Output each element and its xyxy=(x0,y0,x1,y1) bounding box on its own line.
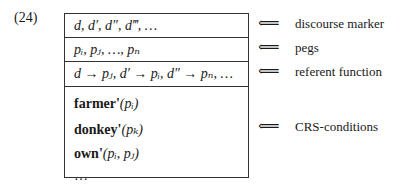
left-double-arrow-icon: ⟸ xyxy=(258,38,280,56)
label-discourse-marker: discourse marker xyxy=(295,16,384,32)
left-double-arrow-icon: ⟸ xyxy=(258,117,280,135)
referent-function-row: d → pⱼ, d′ → pᵢ, d″ → pₙ, … xyxy=(65,62,248,87)
condition-own: own'(pᵢ, pⱼ) xyxy=(74,145,139,162)
label-pegs: pegs xyxy=(295,40,319,56)
discourse-markers-text: d, d′, d″, d‴, … xyxy=(74,18,157,33)
predicate: own' xyxy=(74,146,103,161)
arguments: (pᵢ, pⱼ) xyxy=(103,146,139,161)
example-number: (24) xyxy=(14,10,37,26)
arguments: (pᵢ) xyxy=(120,96,139,111)
pegs-text: pᵢ, pⱼ, …, pₙ xyxy=(74,42,140,57)
arguments: (pₖ) xyxy=(121,122,142,137)
condition-farmer: farmer'(pᵢ) xyxy=(74,96,138,112)
predicate: farmer' xyxy=(74,96,120,111)
pegs-row: pᵢ, pⱼ, …, pₙ xyxy=(65,38,248,62)
predicate: donkey' xyxy=(74,122,121,137)
crs-box: d, d′, d″, d‴, … pᵢ, pⱼ, …, pₙ d → pⱼ, d… xyxy=(64,13,249,178)
label-referent-function: referent function xyxy=(295,64,382,80)
condition-ellipsis: … xyxy=(74,168,88,184)
referent-function-text: d → pⱼ, d′ → pᵢ, d″ → pₙ, … xyxy=(74,66,233,81)
left-double-arrow-icon: ⟸ xyxy=(258,14,280,32)
label-crs-conditions: CRS-conditions xyxy=(295,119,378,135)
left-double-arrow-icon: ⟸ xyxy=(258,62,280,80)
discourse-markers-row: d, d′, d″, d‴, … xyxy=(65,14,248,38)
ellipsis: … xyxy=(74,168,88,183)
condition-donkey: donkey'(pₖ) xyxy=(74,121,143,138)
